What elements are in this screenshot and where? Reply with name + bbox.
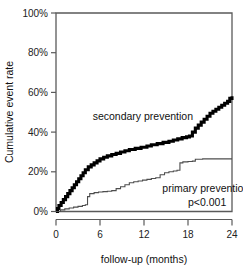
y-tick-label: 60%	[28, 87, 48, 98]
y-tick-label: 20%	[28, 166, 48, 177]
x-axis-title: follow-up (months)	[101, 253, 187, 265]
annotation-pvalue: p<0.001	[188, 196, 226, 208]
x-tick-label: 0	[53, 229, 59, 240]
y-axis-title: Cumulative event rate	[3, 61, 15, 163]
x-tick-label: 24	[226, 229, 238, 240]
x-tick-label: 12	[138, 229, 150, 240]
y-tick-label: 40%	[28, 127, 48, 138]
x-tick-label: 6	[97, 229, 103, 240]
kaplan-meier-chart: 0%20%40%60%80%100% 06121824 secondary pr…	[0, 0, 243, 274]
x-tick-label: 18	[182, 229, 194, 240]
annotation-primary-prevention: primary prevention	[162, 182, 243, 194]
y-tick-label: 100%	[22, 8, 48, 19]
annotation-secondary-prevention: secondary prevention	[93, 110, 194, 122]
x-axis-ticks: 06121824	[53, 220, 238, 240]
chart-figure: 0%20%40%60%80%100% 06121824 secondary pr…	[0, 0, 243, 274]
y-axis-ticks: 0%20%40%60%80%100%	[22, 8, 56, 218]
y-tick-label: 80%	[28, 47, 48, 58]
y-tick-label: 0%	[34, 206, 49, 217]
